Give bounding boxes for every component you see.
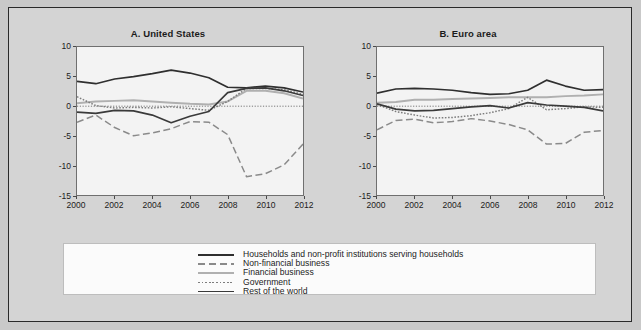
y-axis-tick-label: 5 xyxy=(329,71,371,81)
data-series-line xyxy=(377,94,603,102)
panel-title-united-states: A. United States xyxy=(21,28,315,39)
y-axis-tick-label: -10 xyxy=(329,161,371,171)
y-axis-tick-label: 10 xyxy=(329,41,371,51)
x-axis-tick-mark xyxy=(490,196,491,199)
x-axis-tick-mark xyxy=(114,196,115,199)
x-axis-tick-mark xyxy=(414,196,415,199)
y-axis-tick-mark xyxy=(373,166,376,167)
y-axis-tick-mark xyxy=(73,76,76,77)
plot-area-united-states xyxy=(76,46,304,196)
panel-title-euro-area: B. Euro area xyxy=(321,28,615,39)
y-axis-tick-mark xyxy=(73,46,76,47)
y-axis-tick-mark xyxy=(373,76,376,77)
x-axis-tick-label: 2004 xyxy=(132,200,172,210)
x-axis-tick-mark xyxy=(566,196,567,199)
plot-area-euro-area xyxy=(376,46,604,196)
line-chart-svg-united-states xyxy=(77,47,303,195)
x-axis-tick-mark xyxy=(604,196,605,199)
x-axis-tick-mark xyxy=(304,196,305,199)
x-axis-tick-mark xyxy=(376,196,377,199)
x-axis-tick-label: 2000 xyxy=(356,200,396,210)
x-axis-tick-mark xyxy=(152,196,153,199)
x-axis-tick-mark xyxy=(76,196,77,199)
x-axis-tick-label: 2010 xyxy=(246,200,286,210)
x-axis-tick-label: 2010 xyxy=(546,200,586,210)
x-axis-tick-label: 2006 xyxy=(470,200,510,210)
x-axis-tick-label: 2012 xyxy=(284,200,324,210)
legend-line-sample xyxy=(198,254,234,256)
figure-panel: A. United States 1050-5-10-1520002002200… xyxy=(8,7,632,322)
x-axis-tick-label: 2006 xyxy=(170,200,210,210)
chart-legend: Households and non-profit institutions s… xyxy=(63,243,596,295)
x-axis-tick-label: 2008 xyxy=(508,200,548,210)
x-axis-tick-mark xyxy=(452,196,453,199)
y-axis-tick-label: 0 xyxy=(329,101,371,111)
x-axis-tick-label: 2000 xyxy=(56,200,96,210)
x-axis-tick-mark xyxy=(228,196,229,199)
data-series-line xyxy=(77,88,303,123)
legend-line-sample xyxy=(198,282,234,284)
y-axis-tick-label: -10 xyxy=(29,161,71,171)
line-chart-svg-euro-area xyxy=(377,47,603,195)
x-axis-tick-label: 2002 xyxy=(394,200,434,210)
legend-item-label: Rest of the world xyxy=(243,286,307,296)
y-axis-tick-label: 10 xyxy=(29,41,71,51)
x-axis-tick-mark xyxy=(528,196,529,199)
x-axis-tick-mark xyxy=(266,196,267,199)
x-axis-tick-label: 2008 xyxy=(208,200,248,210)
y-axis-tick-label: -5 xyxy=(329,131,371,141)
chart-panel-euro-area: B. Euro area 1050-5-10-15200020022004200… xyxy=(321,28,615,233)
y-axis-tick-mark xyxy=(73,106,76,107)
x-axis-tick-label: 2004 xyxy=(432,200,472,210)
chart-panel-united-states: A. United States 1050-5-10-1520002002200… xyxy=(21,28,315,233)
legend-line-sample xyxy=(198,272,234,274)
y-axis-tick-label: 0 xyxy=(29,101,71,111)
data-series-line xyxy=(77,115,303,177)
y-axis-tick-mark xyxy=(373,136,376,137)
legend-line-sample xyxy=(198,263,234,265)
y-axis-tick-mark xyxy=(73,166,76,167)
legend-line-sample xyxy=(198,291,234,293)
x-axis-tick-label: 2012 xyxy=(584,200,624,210)
data-series-line xyxy=(377,119,603,144)
y-axis-tick-mark xyxy=(373,46,376,47)
x-axis-tick-label: 2002 xyxy=(94,200,134,210)
data-series-line xyxy=(77,91,303,105)
x-axis-tick-mark xyxy=(190,196,191,199)
y-axis-tick-label: 5 xyxy=(29,71,71,81)
data-series-line xyxy=(377,80,603,94)
y-axis-tick-mark xyxy=(373,106,376,107)
y-axis-tick-label: -5 xyxy=(29,131,71,141)
data-series-line xyxy=(377,103,603,111)
y-axis-tick-mark xyxy=(73,136,76,137)
